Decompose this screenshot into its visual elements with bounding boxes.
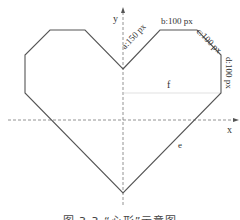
segment-e-label: e — [178, 141, 182, 150]
figure-caption: 图 3.3 “心形”示意图 — [0, 212, 240, 220]
segment-d-label: d:100 px — [224, 57, 233, 89]
x-axis-label: x — [227, 125, 232, 135]
x-axis — [8, 118, 239, 122]
segment-f-label: f — [167, 80, 170, 90]
y-axis — [121, 7, 125, 205]
y-axis-label: y — [113, 14, 118, 24]
segment-b-label: b:100 px — [161, 17, 193, 26]
